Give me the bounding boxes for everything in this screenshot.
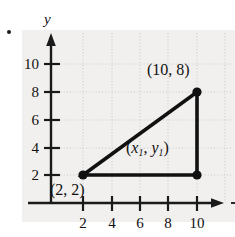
x-tick-label-4: 4: [97, 216, 127, 231]
y-axis: [46, 33, 56, 203]
y-tick-label-2: 2: [6, 168, 39, 183]
x-tick-label-2: 2: [68, 216, 98, 231]
coordinate-plane-figure: y 10 8 6 4 2 2 4 6 8 10 (10, 8) (2, 2) (…: [0, 0, 235, 237]
x-tick-label-8: 8: [153, 216, 183, 231]
x-tick-label-10: 10: [182, 216, 212, 231]
vertex-label-10-8: (10, 8): [147, 62, 190, 78]
point-marker-10-2: [192, 170, 201, 179]
y-tick-label-10: 10: [6, 57, 39, 72]
point-marker-10-8: [192, 87, 201, 96]
y-symbol: y: [151, 139, 158, 156]
margin-bullet-icon: [7, 30, 11, 34]
y-tick-label-4: 4: [6, 141, 39, 156]
y-axis-label: y: [44, 12, 51, 27]
point-marker-2-2: [78, 170, 87, 179]
x-tick-label-6: 6: [125, 216, 155, 231]
interior-point-label: (x1, y1): [126, 140, 169, 158]
paren-close: ): [163, 139, 168, 156]
vertex-label-2-2: (2, 2): [50, 182, 85, 198]
triangle-shape: [83, 92, 197, 175]
y-tick-label-6: 6: [6, 113, 39, 128]
right-edge-tick: [231, 202, 235, 204]
x-axis: [28, 198, 224, 208]
y-tick-label-8: 8: [6, 85, 39, 100]
